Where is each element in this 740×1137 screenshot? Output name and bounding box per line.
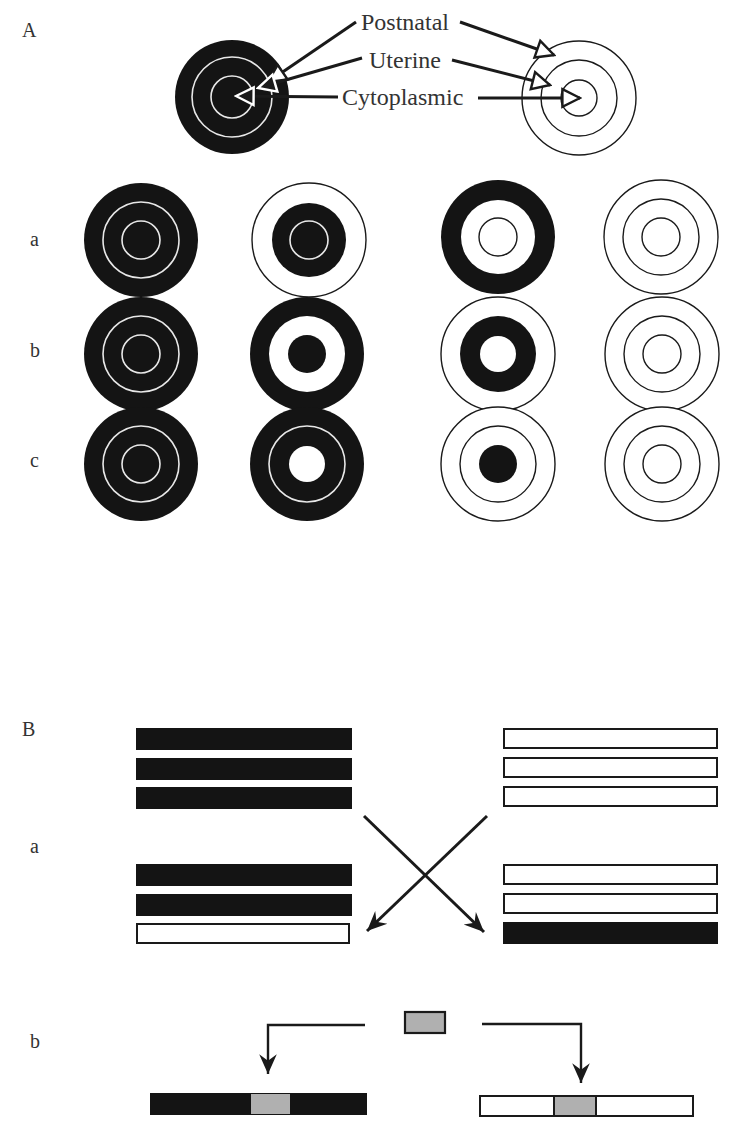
legend-postnatal: Postnatal (361, 9, 449, 35)
light-chromosome-with-insert (480, 1096, 693, 1116)
panel-b: B a b (22, 718, 718, 1116)
target-dark-inner-two (252, 183, 366, 297)
chromosome-set-light-after (503, 865, 718, 944)
row-b-targets (84, 297, 719, 411)
target-dark-outer-and-center (250, 297, 364, 411)
legend-uterine: Uterine (369, 47, 441, 73)
panel-label-b: B (22, 718, 35, 740)
row-label-c: c (30, 449, 39, 471)
dark-chromosome-with-insert (150, 1093, 367, 1115)
target-all-light (605, 297, 719, 411)
panel-label-a: A (22, 19, 37, 41)
exchange-arrows (364, 816, 487, 932)
insert-segment (405, 1012, 445, 1033)
legend-cytoplasmic: Cytoplasmic (342, 84, 463, 110)
chromosome-set-dark-after (136, 864, 352, 943)
target-dark-outer-two (250, 407, 364, 521)
target-all-dark (84, 407, 198, 521)
target-dark-outer-ring (441, 180, 555, 294)
target-all-light (605, 407, 719, 521)
row-label-b: b (30, 339, 40, 361)
inheritance-diagram: A Postnatal Uterine Cytoplasmic (0, 0, 740, 1137)
panel-a: A Postnatal Uterine Cytoplasmic (22, 9, 719, 521)
target-dark-middle-ring (441, 297, 555, 411)
target-dark-center (441, 407, 555, 521)
chromosome-set-light-before (504, 729, 717, 806)
row-label-a: a (30, 835, 39, 857)
target-all-dark (84, 297, 198, 411)
chromosome-set-dark-before (136, 728, 352, 809)
target-all-dark (84, 183, 198, 297)
row-label-a: a (30, 228, 39, 250)
row-a-targets (84, 180, 718, 297)
row-c-targets (84, 407, 719, 521)
target-all-light (604, 180, 718, 294)
row-label-b: b (30, 1030, 40, 1052)
